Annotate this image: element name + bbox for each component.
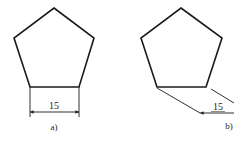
pentagon-a [14,8,94,87]
figure-b: 15 b) [141,8,234,131]
dimension-value-b: 15 [213,101,223,112]
leader-line-b [157,88,200,113]
caption-b: b) [225,121,233,131]
figure-a: 15 a) [14,8,94,132]
caption-a: a) [51,122,58,132]
dimension-value-a: 15 [49,100,59,111]
pentagon-b [141,8,222,87]
diagram-canvas: 15 a) 15 b) [0,0,234,144]
